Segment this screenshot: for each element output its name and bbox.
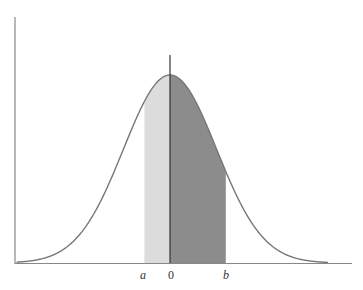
shaded-region-0-to-b <box>170 75 226 263</box>
normal-distribution-chart: a 0 b <box>0 0 363 290</box>
shaded-region-a-to-0 <box>144 75 170 263</box>
tick-label-b: b <box>223 268 229 282</box>
tick-label-zero: 0 <box>168 268 174 282</box>
tick-label-a: a <box>140 268 146 282</box>
shaded-regions <box>144 75 225 263</box>
